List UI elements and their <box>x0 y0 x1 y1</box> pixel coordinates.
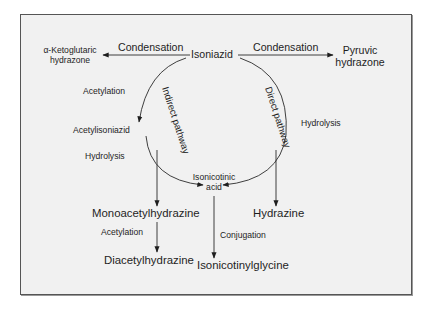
edge-label-acetylation-1: Acetylation <box>83 87 125 97</box>
edge-label-condensation-left: Condensation <box>118 41 183 53</box>
node-isonicotinic-acid: Isonicotinic acid <box>186 173 242 193</box>
node-pyruvic-line2: hydrazone <box>330 56 390 68</box>
edge-label-acetylation-2: Acetylation <box>101 228 143 238</box>
node-hydrazine: Hydrazine <box>253 207 304 220</box>
node-acetylisoniazid: Acetylisoniazid <box>73 126 130 136</box>
node-diacetylhydrazine: Diacetylhydrazine <box>104 254 194 267</box>
node-isoniazid: Isoniazid <box>191 48 233 60</box>
edge-label-conjugation: Conjugation <box>220 231 266 241</box>
node-pyruvic-hydrazone: Pyruvic hydrazone <box>330 44 390 68</box>
edge-label-hydrolysis-left: Hydrolysis <box>85 152 125 162</box>
node-ketoglutaric-line2: hydrazone <box>38 56 102 66</box>
node-pyruvic-line1: Pyruvic <box>330 44 390 56</box>
node-ketoglutaric-hydrazone: α-Ketoglutaric hydrazone <box>38 46 102 66</box>
node-isonicotinylglycine: Isonicotinylglycine <box>197 259 289 272</box>
indirect-pathway-label: Indirect pathway <box>160 85 192 155</box>
node-isonicotinic-line2: acid <box>186 183 242 193</box>
edge-label-hydrolysis-right: Hydrolysis <box>301 119 341 129</box>
direct-pathway-label: Direct pathway <box>263 85 293 149</box>
node-monoacetylhydrazine: Monoacetylhydrazine <box>92 207 200 220</box>
edge-label-condensation-right: Condensation <box>253 41 318 53</box>
